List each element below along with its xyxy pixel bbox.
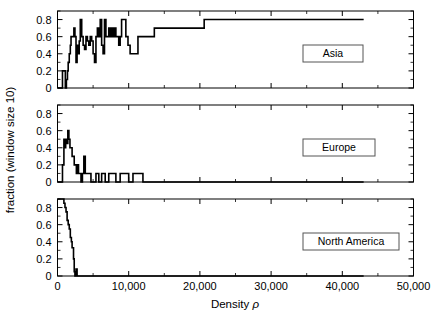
x-tick-label: 10,000 [112,280,146,292]
y-tick-label: 0.8 [36,108,51,120]
panel-north-america: 00.20.40.60.8North America010,00020,0003… [36,199,430,292]
chart-svg: fraction (window size 10) 00.20.40.60.8A… [0,0,438,318]
x-tick-label: 20,000 [183,280,217,292]
y-tick-label: 0.4 [36,236,51,248]
x-tick-label: 30,000 [254,280,288,292]
legend-label-north-america: North America [318,235,385,247]
x-axis-title: Density ρ [211,298,260,310]
y-tick-label: 0.2 [36,253,51,265]
legend-label-asia: Asia [323,47,344,59]
y-tick-label: 0.2 [36,159,51,171]
y-axis-title-text: fraction (window size 10) [4,87,16,214]
y-tick-label: 0.4 [36,48,51,60]
x-tick-label: 50,000 [397,280,431,292]
y-axis-title: fraction (window size 10) [4,87,16,214]
x-axis-title-text: Density ρ [211,298,260,310]
y-tick-label: 0.4 [36,142,51,154]
legend-label-europe: Europe [322,141,356,153]
figure-root: fraction (window size 10) 00.20.40.60.8A… [0,0,438,318]
y-tick-label: 0 [45,270,51,282]
panel-europe: 00.20.40.60.8Europe [36,105,413,188]
x-axis-title-symbol: ρ [251,298,259,310]
y-tick-label: 0.6 [36,31,51,43]
panel-group: 00.20.40.60.8Asia00.20.40.60.8Europe00.2… [36,11,430,292]
panel-asia: 00.20.40.60.8Asia [36,11,413,94]
x-tick-label: 0 [54,280,60,292]
y-tick-label: 0.6 [36,125,51,137]
y-tick-label: 0.8 [36,14,51,26]
x-axis-title-prefix: Density [211,298,253,310]
y-tick-label: 0.2 [36,65,51,77]
y-tick-label: 0.8 [36,202,51,214]
x-tick-label: 40,000 [325,280,359,292]
y-tick-label: 0 [45,82,51,94]
y-tick-label: 0 [45,176,51,188]
y-tick-label: 0.6 [36,219,51,231]
